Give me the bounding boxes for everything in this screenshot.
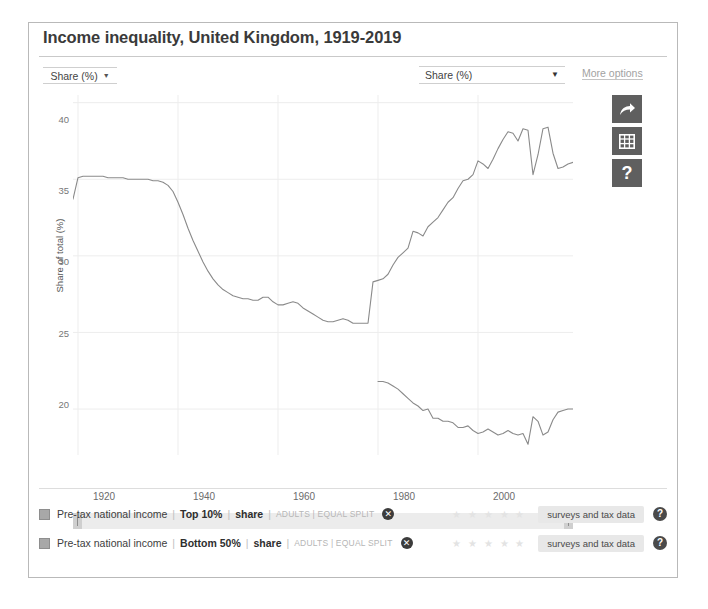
title-bar: Income inequality, United Kingdom, 1919-… <box>29 23 677 55</box>
chevron-down-icon: ▼ <box>551 71 559 79</box>
left-metric-select-value: Share (%) <box>50 70 97 82</box>
right-metric-select-value: Share (%) <box>425 69 472 81</box>
legend-separator: | <box>268 508 271 520</box>
y-tick-30: 30 <box>35 256 69 267</box>
legend-separator: | <box>172 537 175 549</box>
y-tick-40: 40 <box>35 114 69 125</box>
legend-separator: | <box>227 508 230 520</box>
chart-card: Income inequality, United Kingdom, 1919-… <box>28 22 678 578</box>
series-help-icon[interactable]: ? <box>653 507 667 521</box>
legend-divider <box>39 488 667 489</box>
legend-measure: share <box>253 537 281 549</box>
plot-area: Share of total (%) 40 35 30 25 20 1920 1… <box>29 85 679 485</box>
legend-separator: | <box>287 537 290 549</box>
page-title: Income inequality, United Kingdom, 1919-… <box>43 28 401 47</box>
legend-meta: ADULTS | EQUAL SPLIT <box>276 509 374 519</box>
legend-row: Pre-tax national income | Top 10% | shar… <box>39 501 667 527</box>
legend-color-swatch[interactable] <box>39 509 50 520</box>
title-divider <box>39 56 667 57</box>
remove-series-button[interactable]: ✕ <box>401 537 413 549</box>
series-help-icon[interactable]: ? <box>653 536 667 550</box>
legend-color-swatch[interactable] <box>39 538 50 549</box>
legend-metric: Top 10% <box>180 508 222 520</box>
legend-source: Pre-tax national income <box>57 537 167 549</box>
legend-separator: | <box>246 537 249 549</box>
legend-source: Pre-tax national income <box>57 508 167 520</box>
data-source-badge[interactable]: surveys and tax data <box>538 506 644 523</box>
y-tick-25: 25 <box>35 328 69 339</box>
legend-metric: Bottom 50% <box>180 537 241 549</box>
y-tick-20: 20 <box>35 399 69 410</box>
legend-measure: share <box>235 508 263 520</box>
quality-rating-stars: ★ ★ ★ ★ ★ <box>452 509 526 520</box>
chevron-down-icon: ▼ <box>103 72 110 79</box>
quality-rating-stars: ★ ★ ★ ★ ★ <box>452 538 526 549</box>
more-options-link[interactable]: More options <box>582 67 643 80</box>
y-tick-35: 35 <box>35 185 69 196</box>
data-source-badge[interactable]: surveys and tax data <box>538 535 644 552</box>
legend-row: Pre-tax national income | Bottom 50% | s… <box>39 530 667 556</box>
remove-series-button[interactable]: ✕ <box>382 508 394 520</box>
left-metric-select[interactable]: Share (%) ▼ <box>43 67 117 84</box>
legend-separator: | <box>172 508 175 520</box>
legend-meta: ADULTS | EQUAL SPLIT <box>294 538 392 548</box>
right-metric-select[interactable]: Share (%) ▼ <box>419 66 565 84</box>
line-chart-svg <box>73 95 573 485</box>
